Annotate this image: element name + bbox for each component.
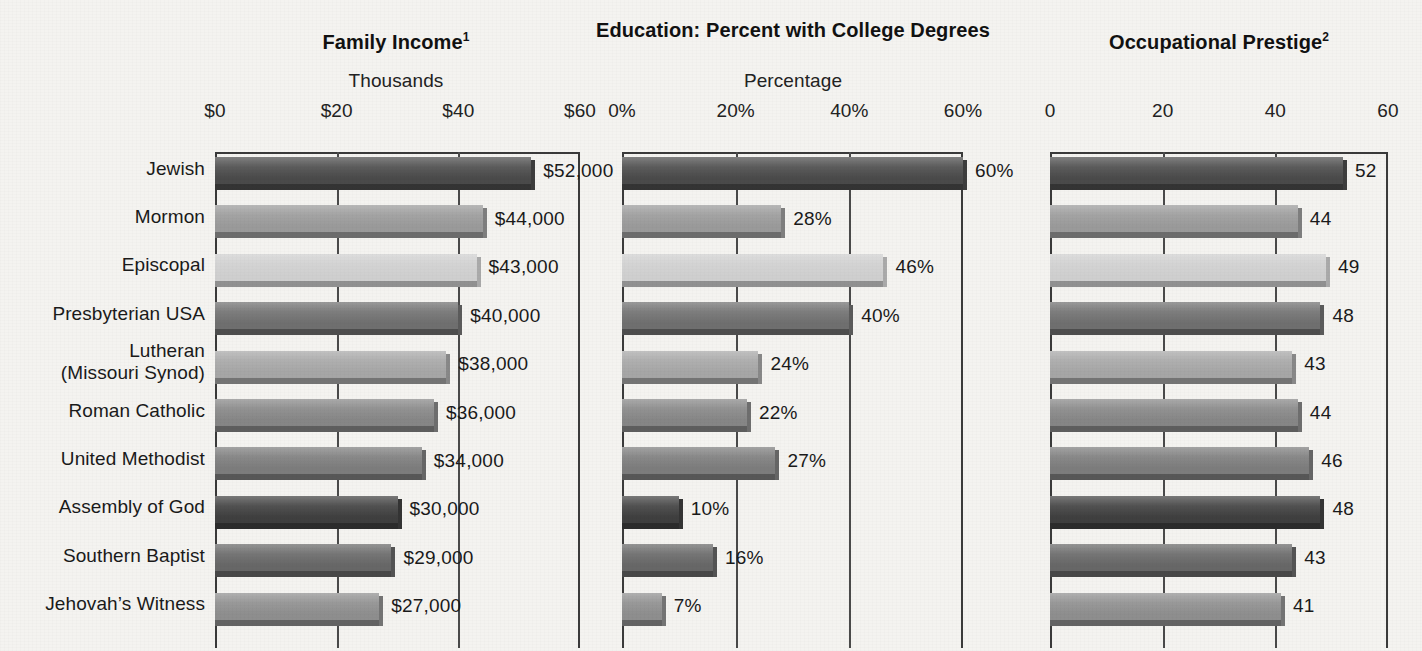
bar-face (1050, 496, 1320, 524)
bar-side-cap (1292, 547, 1296, 577)
bar-face (1050, 544, 1292, 572)
bar-side-cap (775, 450, 779, 480)
x-axis-tick-occupational-prestige-0: 0 (1005, 100, 1095, 122)
panel-title-footnote-marker: 1 (463, 30, 470, 44)
bar-family-income-5 (215, 399, 434, 432)
bar-bottom-shadow (1050, 281, 1330, 287)
bar-row-education-7 (622, 496, 963, 529)
bar-face (1050, 593, 1281, 621)
bar-occupational-prestige-7 (1050, 496, 1320, 529)
bar-family-income-4 (215, 351, 446, 384)
bar-bottom-shadow (1050, 474, 1313, 480)
x-axis-tick-education-1: 20% (691, 100, 781, 122)
bar-side-cap (758, 354, 762, 384)
bar-row-family-income-8 (215, 544, 580, 577)
panel-subtitle-family-income: Thousands (246, 70, 546, 92)
bar-side-cap (1320, 305, 1324, 335)
bar-face (215, 447, 422, 475)
bar-side-cap (1320, 499, 1324, 529)
bar-face (215, 205, 483, 233)
bar-bottom-shadow (215, 329, 462, 335)
bar-occupational-prestige-4 (1050, 351, 1292, 384)
x-axis-tick-occupational-prestige-2: 40 (1230, 100, 1320, 122)
bar-education-2 (622, 254, 883, 287)
bar-face (215, 302, 458, 330)
bar-row-occupational-prestige-5 (1050, 399, 1388, 432)
bar-value-label-family-income-1: $44,000 (495, 208, 565, 230)
bar-occupational-prestige-8 (1050, 544, 1292, 577)
category-label-6: United Methodist (5, 448, 205, 470)
bar-face (622, 302, 849, 330)
bar-side-cap (391, 547, 395, 577)
bar-side-cap (483, 208, 487, 238)
bar-face (215, 399, 434, 427)
bar-bottom-shadow (1050, 184, 1347, 190)
category-label-5: Roman Catholic (5, 400, 205, 422)
bar-face (1050, 302, 1320, 330)
bar-bottom-shadow (1050, 378, 1296, 384)
bar-value-label-education-5: 22% (759, 402, 798, 424)
bar-family-income-2 (215, 254, 477, 287)
bar-education-4 (622, 351, 758, 384)
bar-value-label-education-3: 40% (861, 305, 900, 327)
bar-side-cap (1309, 450, 1313, 480)
bar-value-label-occupational-prestige-2: 49 (1338, 256, 1360, 278)
bar-bottom-shadow (1050, 232, 1302, 238)
bar-face (215, 593, 379, 621)
bar-bottom-shadow (215, 620, 383, 626)
bar-face (622, 593, 662, 621)
bar-value-label-family-income-8: $29,000 (403, 547, 473, 569)
bar-face (1050, 205, 1298, 233)
bar-side-cap (963, 160, 967, 190)
panel-title-family-income: Family Income1 (166, 30, 626, 55)
bar-side-cap (458, 305, 462, 335)
x-axis-tick-family-income-1: $20 (292, 100, 382, 122)
bar-face (622, 544, 713, 572)
bar-side-cap (679, 499, 683, 529)
bar-bottom-shadow (215, 232, 487, 238)
bar-row-occupational-prestige-1 (1050, 205, 1388, 238)
bar-bottom-shadow (1050, 329, 1324, 335)
bar-face (1050, 399, 1298, 427)
bar-family-income-3 (215, 302, 458, 335)
bar-value-label-education-9: 7% (674, 595, 702, 617)
bar-side-cap (398, 499, 402, 529)
bar-side-cap (446, 354, 450, 384)
bar-occupational-prestige-6 (1050, 447, 1309, 480)
bar-value-label-family-income-3: $40,000 (470, 305, 540, 327)
bar-side-cap (434, 402, 438, 432)
bar-face (622, 496, 679, 524)
bar-education-8 (622, 544, 713, 577)
bar-value-label-family-income-9: $27,000 (391, 595, 461, 617)
x-axis-tick-occupational-prestige-3: 60 (1343, 100, 1422, 122)
bar-side-cap (1298, 208, 1302, 238)
panel-title-footnote-marker: 2 (1322, 30, 1329, 44)
bar-face (1050, 157, 1343, 185)
bar-family-income-6 (215, 447, 422, 480)
bar-bottom-shadow (215, 523, 402, 529)
bar-value-label-occupational-prestige-5: 44 (1310, 402, 1332, 424)
bar-row-occupational-prestige-8 (1050, 544, 1388, 577)
x-axis-tick-education-3: 60% (918, 100, 1008, 122)
bar-occupational-prestige-9 (1050, 593, 1281, 626)
bar-value-label-education-6: 27% (787, 450, 826, 472)
bar-row-family-income-6 (215, 447, 580, 480)
bar-bottom-shadow (622, 184, 967, 190)
bar-bottom-shadow (215, 474, 426, 480)
bar-side-cap (747, 402, 751, 432)
bar-value-label-family-income-4: $38,000 (458, 353, 528, 375)
bar-value-label-education-2: 46% (895, 256, 934, 278)
bar-face (215, 157, 531, 185)
category-label-2: Episcopal (5, 254, 205, 276)
bar-occupational-prestige-5 (1050, 399, 1298, 432)
bar-row-education-8 (622, 544, 963, 577)
bar-row-family-income-0 (215, 157, 580, 190)
bar-face (215, 351, 446, 379)
bar-bottom-shadow (622, 620, 666, 626)
bar-face (622, 351, 758, 379)
category-label-9: Jehovah’s Witness (5, 593, 205, 615)
bar-side-cap (662, 596, 666, 626)
bar-side-cap (849, 305, 853, 335)
bar-face (622, 157, 963, 185)
bar-side-cap (1298, 402, 1302, 432)
